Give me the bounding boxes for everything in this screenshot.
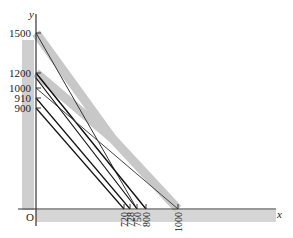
chart-svg: 1500 1200 1000 910 900 720 728 750 800 1… bbox=[0, 0, 293, 238]
x-tick-1000: 1000 bbox=[173, 212, 184, 232]
line-900-720 bbox=[36, 108, 124, 209]
x-axis-label: x bbox=[276, 208, 282, 220]
x-axis-band bbox=[36, 210, 276, 222]
y-tick-900: 900 bbox=[15, 102, 32, 114]
chart: 1500 1200 1000 910 900 720 728 750 800 1… bbox=[0, 0, 293, 238]
y-tick-1200: 1200 bbox=[9, 67, 32, 79]
line-1500-750 bbox=[36, 33, 137, 209]
y-axis-band bbox=[22, 40, 34, 210]
y-tick-1500: 1500 bbox=[9, 27, 32, 39]
x-tick-800: 800 bbox=[141, 212, 152, 227]
y-axis-label: y bbox=[28, 8, 34, 20]
line-1200-800 bbox=[36, 73, 146, 209]
origin-label: O bbox=[26, 211, 34, 223]
